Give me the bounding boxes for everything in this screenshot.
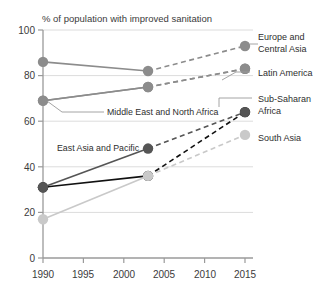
chart-title: % of population with improved sanitation — [42, 13, 212, 24]
series-layer — [38, 41, 250, 225]
series-line-projected — [148, 69, 245, 87]
data-point — [38, 182, 48, 192]
chart-root: % of population with improved sanitation… — [0, 0, 317, 297]
xtick-label-1990: 1990 — [32, 269, 55, 280]
sanitation-line-chart: % of population with improved sanitation… — [0, 0, 317, 297]
ytick-label-100: 100 — [18, 25, 35, 36]
label-europe-line2: Central Asia — [258, 44, 307, 54]
series-line-projected — [148, 69, 245, 87]
label-mena: Middle East and North Africa — [107, 107, 219, 117]
data-point — [38, 57, 48, 67]
right-annotations: Europe and Central Asia Latin America Su… — [258, 32, 313, 143]
data-point — [240, 41, 250, 51]
series-line-observed — [43, 87, 148, 101]
xtick-label-1995: 1995 — [72, 269, 95, 280]
series-europe-and-central-asia — [38, 41, 250, 76]
series-line-projected — [148, 112, 245, 148]
data-point — [240, 107, 250, 117]
ytick-label-0: 0 — [29, 253, 35, 264]
series-line-projected — [148, 46, 245, 71]
label-subsaharan-line1: Sub-Saharan — [258, 94, 311, 104]
data-point — [143, 171, 153, 181]
series-line-observed — [43, 62, 148, 71]
data-point — [38, 214, 48, 224]
leader-line-mena — [47, 101, 104, 112]
x-axis-ticks — [43, 258, 245, 263]
ytick-label-40: 40 — [24, 162, 36, 173]
label-europe-line1: Europe and — [258, 32, 305, 42]
data-point — [143, 82, 153, 92]
data-point — [38, 95, 48, 105]
label-latin-america: Latin America — [258, 68, 313, 78]
xtick-label-2000: 2000 — [113, 269, 136, 280]
ytick-label-60: 60 — [24, 116, 36, 127]
leader-line-subsaharan — [219, 98, 252, 107]
xtick-label-2015: 2015 — [234, 269, 257, 280]
xtick-label-2010: 2010 — [194, 269, 217, 280]
xtick-label-2005: 2005 — [153, 269, 176, 280]
label-south-asia: South Asia — [258, 133, 301, 143]
data-point — [143, 143, 153, 153]
series-line-projected — [148, 135, 245, 176]
x-axis-labels: 1990 1995 2000 2005 2010 2015 — [32, 269, 257, 280]
ytick-label-20: 20 — [24, 207, 36, 218]
label-subsaharan-line2: Africa — [258, 106, 281, 116]
data-point — [240, 130, 250, 140]
label-east-asia: East Asia and Pacific — [57, 143, 140, 153]
data-point — [143, 66, 153, 76]
ytick-label-80: 80 — [24, 70, 36, 81]
y-axis-labels: 100 80 60 40 20 0 — [18, 25, 35, 264]
annotation-leader-lines — [47, 44, 258, 112]
